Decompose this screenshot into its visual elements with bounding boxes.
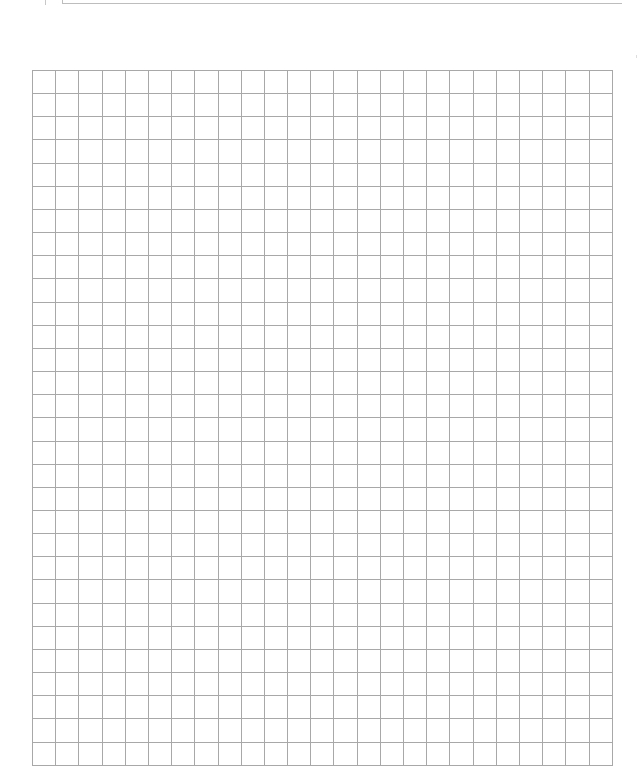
grid-cell	[589, 232, 612, 255]
grid-cell	[403, 487, 426, 510]
grid-cell	[32, 93, 55, 116]
grid-cell	[218, 93, 241, 116]
grid-cell	[426, 186, 449, 209]
grid-cell	[519, 579, 542, 602]
grid-cell	[218, 626, 241, 649]
grid-cell	[264, 649, 287, 672]
grid-cell	[426, 139, 449, 162]
grid-cell	[310, 510, 333, 533]
grid-cell	[78, 510, 101, 533]
grid-cell	[380, 695, 403, 718]
grid-cell	[125, 186, 148, 209]
grid-cell	[403, 718, 426, 741]
grid-cell	[310, 487, 333, 510]
grid-cell	[565, 579, 588, 602]
grid-cell	[473, 417, 496, 440]
grid-cell	[542, 464, 565, 487]
grid-cell	[380, 209, 403, 232]
grid-cell	[496, 649, 519, 672]
grid-cell	[357, 348, 380, 371]
grid-cell	[148, 209, 171, 232]
grid-cell	[264, 93, 287, 116]
grid-cell	[449, 325, 472, 348]
grid-cell	[32, 441, 55, 464]
grid-cell	[565, 649, 588, 672]
grid-cell	[32, 417, 55, 440]
grid-cell	[333, 278, 356, 301]
grid-cell	[102, 487, 125, 510]
grid-cell	[287, 556, 310, 579]
grid-cell	[171, 371, 194, 394]
grid-cell	[194, 209, 217, 232]
grid-cell	[357, 464, 380, 487]
grid-cell	[449, 556, 472, 579]
grid-cell	[102, 255, 125, 278]
grid-cell	[565, 371, 588, 394]
grid-cell	[241, 139, 264, 162]
grid-cell	[310, 603, 333, 626]
grid-cell	[218, 441, 241, 464]
grid-cell	[565, 464, 588, 487]
grid-cell	[102, 417, 125, 440]
grid-cell	[473, 255, 496, 278]
grid-cell	[264, 487, 287, 510]
grid-cell	[519, 556, 542, 579]
grid-cell	[32, 163, 55, 186]
grid-cell	[333, 186, 356, 209]
grid-cell	[565, 510, 588, 533]
grid-cell	[426, 695, 449, 718]
grid-cell	[194, 718, 217, 741]
grid-cell	[171, 232, 194, 255]
grid-cell	[519, 371, 542, 394]
grid-cell	[449, 533, 472, 556]
grid-cell	[426, 742, 449, 765]
grid-cell	[218, 510, 241, 533]
grid-cell	[473, 163, 496, 186]
grid-cell	[565, 533, 588, 556]
grid-cell	[218, 464, 241, 487]
grid-cell	[125, 232, 148, 255]
grid-cell	[78, 394, 101, 417]
grid-cell	[333, 487, 356, 510]
grid-cell	[542, 626, 565, 649]
grid-cell	[194, 394, 217, 417]
grid-cell	[78, 718, 101, 741]
grid-cell	[102, 278, 125, 301]
grid-cell	[426, 464, 449, 487]
grid-cell	[171, 93, 194, 116]
grid-cell	[102, 510, 125, 533]
grid-cell	[148, 278, 171, 301]
grid-cell	[194, 139, 217, 162]
grid-cell	[218, 695, 241, 718]
grid-cell	[473, 626, 496, 649]
grid-cell	[171, 510, 194, 533]
grid-cell	[403, 672, 426, 695]
grid-cell	[194, 533, 217, 556]
grid-cell	[241, 116, 264, 139]
grid-cell	[32, 510, 55, 533]
grid-cell	[565, 718, 588, 741]
grid-cell	[403, 70, 426, 93]
grid-cell	[194, 278, 217, 301]
grid-cell	[333, 209, 356, 232]
grid-cell	[449, 464, 472, 487]
grid-cell	[426, 487, 449, 510]
grid-cell	[449, 209, 472, 232]
grid-cell	[380, 510, 403, 533]
header-field[interactable]	[62, 0, 622, 4]
grid-cell	[78, 278, 101, 301]
grid-cell	[218, 278, 241, 301]
grid-cell	[171, 464, 194, 487]
grid-cell	[449, 510, 472, 533]
grid-cell	[310, 116, 333, 139]
grid-cell	[102, 163, 125, 186]
grid-cell	[589, 278, 612, 301]
grid-cell	[287, 695, 310, 718]
grid-cell	[264, 672, 287, 695]
grid-cell	[241, 718, 264, 741]
grid-cell	[55, 209, 78, 232]
grid-cell	[194, 417, 217, 440]
grid-cell	[519, 487, 542, 510]
grid-cell	[78, 626, 101, 649]
grid-cell	[310, 139, 333, 162]
